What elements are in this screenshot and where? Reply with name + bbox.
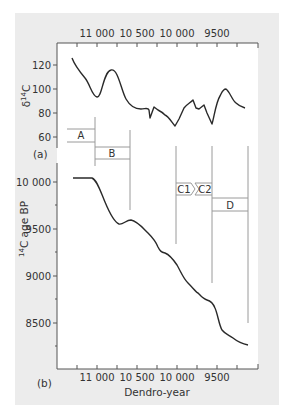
interval-label-c1: C1 xyxy=(177,184,190,195)
panel-a-ytick-60: 60 xyxy=(38,132,51,143)
panel-b-xtick-9500: 9500 xyxy=(204,372,229,383)
panel-b-xtick-10500: 10 500 xyxy=(120,372,155,383)
panel-b-label: (b) xyxy=(37,377,52,389)
panel-b-ylabel-tail: C age BP xyxy=(18,201,30,248)
interval-label-b: B xyxy=(109,148,116,159)
panel-b-xtick-11000: 11 000 xyxy=(80,372,115,383)
interval-label-a: A xyxy=(78,130,85,141)
panel-a-xtick-11000: 11 000 xyxy=(80,28,115,39)
panel-a-ytick-100: 100 xyxy=(32,84,51,95)
panel-a-ylabel-tail: C xyxy=(20,85,32,92)
interval-label-d: D xyxy=(226,200,234,211)
panel-b-ytick-9000: 9000 xyxy=(26,271,51,282)
interval-label-c2: C2 xyxy=(198,184,211,195)
figure: 11 000 10 500 10 000 9500 120 100 80 60 … xyxy=(0,0,284,418)
panel-a-ytick-80: 80 xyxy=(38,108,51,119)
panel-b-ytick-10000: 10 000 xyxy=(16,177,51,188)
panel-b-ylabel: 14C age BP xyxy=(18,201,30,257)
panel-a-xtick-10000: 10 000 xyxy=(160,28,195,39)
panel-a-xtick-9500: 9500 xyxy=(204,28,229,39)
panel-a-ytick-120: 120 xyxy=(32,60,51,71)
panel-a-label: (a) xyxy=(33,148,48,160)
panel-b-xtick-10000: 10 000 xyxy=(160,372,195,383)
panel-b-xlabel: Dendro-year xyxy=(124,386,190,398)
panel-b-ytick-8500: 8500 xyxy=(26,318,51,329)
panel-a-xtick-10500: 10 500 xyxy=(120,28,155,39)
